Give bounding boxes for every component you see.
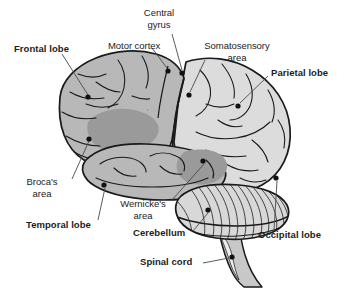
- leader-spinal-cord: [203, 258, 229, 263]
- label-wernickes-area-line1: Wernicke's: [110, 198, 176, 210]
- label-central-gyrus: Central gyrus: [132, 7, 186, 30]
- marker-wernickes-area: [200, 158, 205, 163]
- marker-central-gyrus: [179, 70, 184, 75]
- label-somatosensory-area-line2: area: [197, 52, 277, 64]
- label-frontal-lobe: Frontal lobe: [14, 43, 69, 55]
- label-temporal-lobe: Temporal lobe: [26, 219, 91, 231]
- marker-cerebellum: [205, 207, 210, 212]
- label-wernickes-area: Wernicke's area: [110, 198, 176, 221]
- marker-spinal-cord: [229, 254, 234, 259]
- label-brocas-area: Broca's area: [16, 176, 68, 199]
- label-parietal-lobe: Parietal lobe: [271, 67, 328, 79]
- label-central-gyrus-line2: gyrus: [132, 19, 186, 31]
- marker-brocas-area: [86, 136, 91, 141]
- label-brocas-area-line2: area: [16, 188, 68, 200]
- marker-occipital-lobe: [273, 175, 278, 180]
- marker-motor-cortex: [165, 68, 170, 73]
- marker-somatosensory-area: [186, 92, 191, 97]
- label-central-gyrus-line1: Central: [132, 7, 186, 19]
- label-motor-cortex: Motor cortex: [108, 40, 160, 52]
- brain-shapes: [59, 51, 290, 287]
- marker-temporal-lobe: [101, 182, 106, 187]
- label-occipital-lobe: Occipital lobe: [258, 229, 321, 241]
- leader-temporal-lobe: [98, 188, 105, 220]
- label-wernickes-area-line2: area: [110, 210, 176, 222]
- marker-parietal-lobe: [235, 103, 240, 108]
- label-somatosensory-area: Somatosensory area: [197, 40, 277, 63]
- label-brocas-area-line1: Broca's: [16, 176, 68, 188]
- marker-frontal-lobe: [85, 94, 90, 99]
- label-cerebellum: Cerebellum: [133, 227, 185, 239]
- label-somatosensory-area-line1: Somatosensory: [197, 40, 277, 52]
- label-spinal-cord: Spinal cord: [140, 256, 192, 268]
